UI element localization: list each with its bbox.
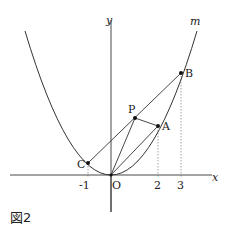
point-c — [86, 161, 90, 165]
tick-2: 2 — [154, 179, 161, 192]
tick-neg1: -1 — [79, 179, 90, 192]
figure-caption: 図2 — [10, 207, 31, 226]
label-p: P — [128, 103, 136, 116]
label-a: A — [161, 120, 171, 133]
x-axis-label: x — [212, 171, 219, 184]
label-b: B — [185, 67, 193, 80]
figure-canvas: y x m B A P C O -1 2 3 — [0, 0, 227, 229]
point-o — [109, 173, 112, 176]
label-o: O — [112, 179, 121, 192]
y-axis-label: y — [105, 14, 113, 27]
point-a — [156, 124, 160, 128]
point-b — [179, 71, 183, 75]
segment-pa — [135, 118, 158, 126]
label-c: C — [77, 158, 85, 171]
tick-3: 3 — [177, 179, 184, 192]
curve-label: m — [190, 15, 200, 28]
point-p — [133, 116, 137, 120]
